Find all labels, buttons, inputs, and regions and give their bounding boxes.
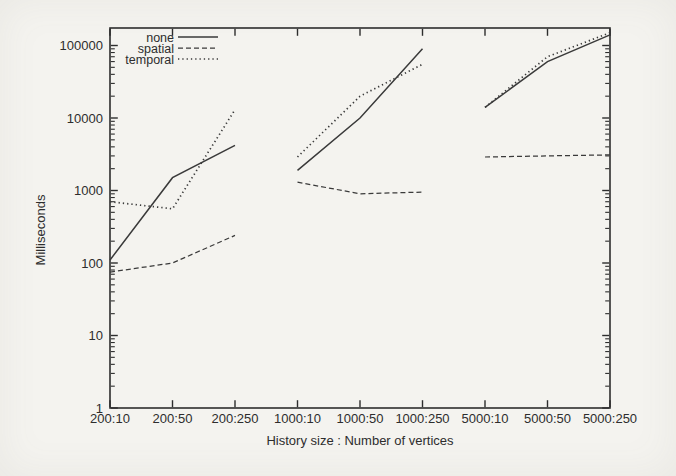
x-axis-tick-label: 1000:10 <box>274 411 321 426</box>
plot-border <box>110 28 610 408</box>
y-axis-tick-label: 1000 <box>74 183 103 198</box>
x-axis-tick-label: 1000:250 <box>395 411 449 426</box>
series-spatial-segment-2 <box>298 182 423 194</box>
series-none-segment-3 <box>485 35 610 108</box>
benchmark-line-chart: 110100100010000100000200:10200:50200:250… <box>0 0 676 476</box>
series-spatial-segment-1 <box>110 235 235 272</box>
x-axis-tick-label: 5000:10 <box>462 411 509 426</box>
x-axis-tick-label: 200:50 <box>153 411 193 426</box>
y-axis-tick-label: 100 <box>81 256 103 271</box>
series-temporal-segment-2 <box>298 64 423 157</box>
y-axis-tick-label: 10000 <box>67 111 103 126</box>
y-axis-tick-label: 100000 <box>60 38 103 53</box>
series-none-segment-2 <box>298 49 423 171</box>
x-axis-tick-label: 1000:50 <box>337 411 384 426</box>
x-axis-title: History size : Number of vertices <box>266 433 454 448</box>
x-axis-tick-label: 200:10 <box>90 411 130 426</box>
legend-label-temporal: temporal <box>125 53 174 67</box>
x-axis-tick-label: 200:250 <box>212 411 259 426</box>
scanned-figure-page: 110100100010000100000200:10200:50200:250… <box>0 0 676 476</box>
series-temporal-segment-1 <box>110 110 235 209</box>
series-temporal-segment-3 <box>485 33 610 108</box>
y-axis-title: Milliseconds <box>33 194 48 265</box>
y-axis-tick-label: 10 <box>89 328 103 343</box>
series-none-segment-1 <box>110 145 235 260</box>
x-axis-tick-label: 5000:250 <box>583 411 637 426</box>
series-spatial-segment-3 <box>485 155 610 157</box>
x-axis-tick-label: 5000:50 <box>524 411 571 426</box>
